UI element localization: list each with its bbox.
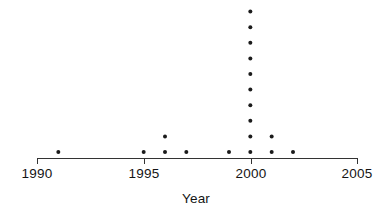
data-point xyxy=(248,103,252,107)
x-axis-title: Year xyxy=(182,191,210,206)
data-point xyxy=(56,150,60,154)
data-point xyxy=(248,88,252,92)
data-point xyxy=(248,10,252,14)
plot-canvas: 1990 1995 2000 2005 Year xyxy=(0,0,386,212)
x-tick-label-2005: 2005 xyxy=(342,166,373,181)
x-axis xyxy=(37,159,358,164)
data-point xyxy=(142,150,146,154)
x-tick-label-2000: 2000 xyxy=(236,166,267,181)
data-point xyxy=(184,150,188,154)
data-point xyxy=(227,150,231,154)
x-tick-labels: 1990 1995 2000 2005 xyxy=(22,166,373,181)
x-tick-label-1990: 1990 xyxy=(22,166,53,181)
x-tick-label-1995: 1995 xyxy=(129,166,160,181)
data-point xyxy=(248,119,252,123)
data-point xyxy=(248,134,252,138)
dot-plot-figure: 1990 1995 2000 2005 Year xyxy=(0,0,386,212)
data-point xyxy=(291,150,295,154)
data-point xyxy=(270,150,274,154)
data-point xyxy=(248,56,252,60)
data-point xyxy=(270,134,274,138)
data-point xyxy=(248,41,252,45)
data-point xyxy=(163,134,167,138)
data-point-layer xyxy=(56,10,295,154)
data-point xyxy=(248,150,252,154)
data-point xyxy=(248,72,252,76)
data-point xyxy=(248,25,252,29)
data-point xyxy=(163,150,167,154)
